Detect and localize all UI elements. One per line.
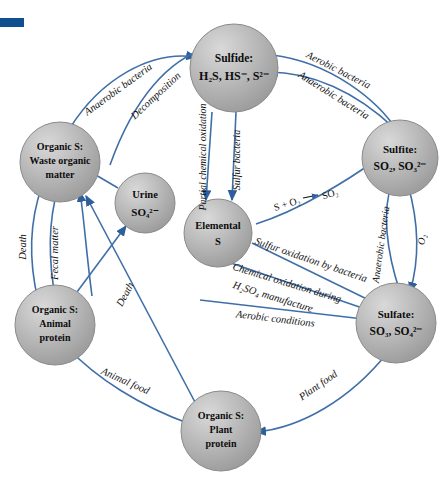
edge-sulfate-to-plant (256, 352, 388, 432)
node-urine[interactable]: Urine SO₄²⁻ (115, 173, 175, 233)
edge-label-partial-chemical-oxidation: Partial chemical oxidation (197, 103, 208, 211)
node-waste-line2: Waste organic (30, 155, 91, 166)
node-sulfide-line2: H₂S, HS⁻, S²⁻ (199, 69, 269, 83)
node-animal-protein[interactable]: Organic S: Animal protein (15, 285, 95, 365)
node-animal-line3: protein (40, 332, 71, 343)
edge-animal-to-urine (74, 226, 126, 296)
edge-label-oxygen: O₂ (415, 233, 427, 246)
edge-label-so2: SO₂ (321, 186, 340, 201)
node-plant-protein[interactable]: Organic S: Plant protein (181, 391, 261, 471)
node-animal-line1: Organic S: (32, 304, 78, 315)
edge-label-plant-food: Plant food (296, 368, 340, 403)
diagram-canvas: Sulfide: H₂S, HS⁻, S²⁻ Sulfite: SO₂, SO₃… (0, 0, 447, 483)
node-urine-line2: SO₄²⁻ (131, 206, 158, 218)
node-elemental-line2: S (215, 236, 221, 247)
edge-sulfite-sulfate (386, 183, 416, 292)
node-sulfide-line1: Sulfide: (215, 52, 253, 64)
node-elemental-line1: Elemental (195, 220, 241, 231)
node-sulfate[interactable]: Sulfate: SO₃, SO₄²⁻ (356, 283, 436, 363)
node-sulfite[interactable]: Sulfite: SO₂, SO₃²⁻ (362, 120, 438, 196)
edge-label-fecal-matter: Fecal matter (49, 225, 60, 281)
node-urine-line1: Urine (132, 189, 158, 200)
node-waste-organic-matter[interactable]: Organic S: Waste organic matter (20, 122, 100, 202)
node-sulfate-line2: SO₃, SO₄²⁻ (370, 325, 423, 337)
node-sulfide[interactable]: Sulfide: H₂S, HS⁻, S²⁻ (190, 24, 278, 112)
node-plant-line3: protein (206, 438, 237, 449)
node-sulfite-line1: Sulfite: (383, 143, 417, 155)
node-animal-line2: Animal (39, 318, 71, 329)
node-waste-line3: matter (46, 169, 75, 180)
sulfur-cycle-diagram: Sulfide: H₂S, HS⁻, S²⁻ Sulfite: SO₂, SO₃… (0, 0, 447, 483)
node-elemental-sulfur[interactable]: Elemental S (184, 199, 252, 267)
edge-label-death-center: Death (114, 280, 136, 309)
edge-elemental-to-sulfite (256, 160, 376, 224)
edge-label-sulfur-bacteria: Sulfur bacteria (231, 130, 242, 190)
node-plant-line1: Organic S: (198, 410, 244, 421)
node-waste-line1: Organic S: (37, 141, 83, 152)
edge-label-s-plus-o2: S + O₂ (272, 194, 301, 212)
node-sulfate-line1: Sulfate: (378, 308, 415, 320)
node-sulfite-line2: SO₂, SO₃²⁻ (374, 160, 427, 172)
node-plant-line2: Plant (210, 424, 233, 435)
edge-label-death-left: Death (17, 234, 28, 261)
